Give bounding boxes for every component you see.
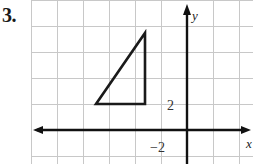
y-axis (183, 4, 191, 164)
x-axis (33, 126, 251, 134)
graph-canvas: y x 2 −2 (31, 0, 253, 164)
y-axis-label: y (190, 8, 198, 23)
coordinate-graph: y x 2 −2 (31, 0, 253, 164)
worksheet-figure: 3. (0, 0, 253, 164)
grid-lines (31, 0, 253, 164)
x-axis-label: x (245, 136, 252, 151)
triangle-shape (96, 33, 145, 104)
x-axis-right-arrow-icon (241, 126, 251, 134)
y-axis-up-arrow-icon (183, 4, 191, 15)
y-tick-label-2: 2 (167, 98, 174, 113)
x-axis-left-arrow-icon (33, 126, 43, 134)
x-tick-label-neg-2: −2 (150, 140, 165, 155)
problem-number: 3. (2, 4, 16, 27)
